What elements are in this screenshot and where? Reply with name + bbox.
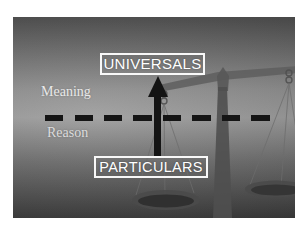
slide-canvas: Meaning Reason UNIVERSALS PARTICULARS <box>13 17 295 218</box>
scale-right-ring2-icon <box>286 77 292 83</box>
zone-label-meaning: Meaning <box>41 84 91 100</box>
particulars-box: PARTICULARS <box>94 156 208 178</box>
scale-right-strings-icon <box>250 83 295 187</box>
up-arrow-head-icon <box>148 76 168 97</box>
scale-left-ring2-icon <box>161 98 167 104</box>
scale-left-pan-icon <box>138 195 194 208</box>
zone-label-reason: Reason <box>47 125 88 141</box>
scale-pole-icon <box>213 87 232 218</box>
up-arrow-shaft-icon <box>154 95 161 156</box>
universals-box: UNIVERSALS <box>100 53 205 75</box>
dashed-divider <box>45 115 281 121</box>
